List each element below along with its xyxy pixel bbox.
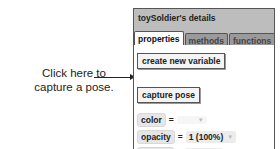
property-row-opacity: opacity = 1 (100%) ▼ [137,130,271,144]
property-row-color: color = ▼ [137,113,271,127]
property-name-color[interactable]: color [137,113,166,127]
callout-line-2: capture a pose. [18,80,130,94]
tab-bar: properties methods functions [134,31,276,45]
property-name-opacity[interactable]: opacity [137,130,175,144]
details-panel: toySoldier's details properties methods … [133,8,275,149]
callout-pointer-line [94,77,132,78]
dropdown-arrow-icon: ▼ [198,117,204,123]
equals-sign: = [169,115,174,125]
dropdown-arrow-icon: ▼ [227,134,233,140]
tab-methods[interactable]: methods [185,33,228,45]
vehicle-value-dropdown[interactable]: world ▼ [185,148,224,149]
panel-title: toySoldier's details [138,13,216,23]
create-new-variable-button[interactable]: create new variable [137,53,225,69]
property-name-vehicle[interactable]: vehicle [137,147,174,149]
capture-pose-button[interactable]: capture pose [137,87,200,103]
property-row-vehicle: vehicle = world ▼ [137,147,271,149]
tab-functions[interactable]: functions [229,33,275,45]
properties-tab-content: create new variable capture pose color =… [134,45,274,149]
color-value-dropdown[interactable]: ▼ [177,116,207,124]
callout-annotation: Click here to capture a pose. [18,66,130,94]
panel-header: toySoldier's details properties methods … [134,8,274,45]
property-list: color = ▼ opacity = 1 (100%) ▼ vehicle = [137,113,271,149]
tab-properties[interactable]: properties [134,31,184,45]
equals-sign: = [178,132,183,142]
opacity-value-dropdown[interactable]: 1 (100%) ▼ [186,131,236,143]
opacity-value: 1 (100%) [189,132,224,142]
